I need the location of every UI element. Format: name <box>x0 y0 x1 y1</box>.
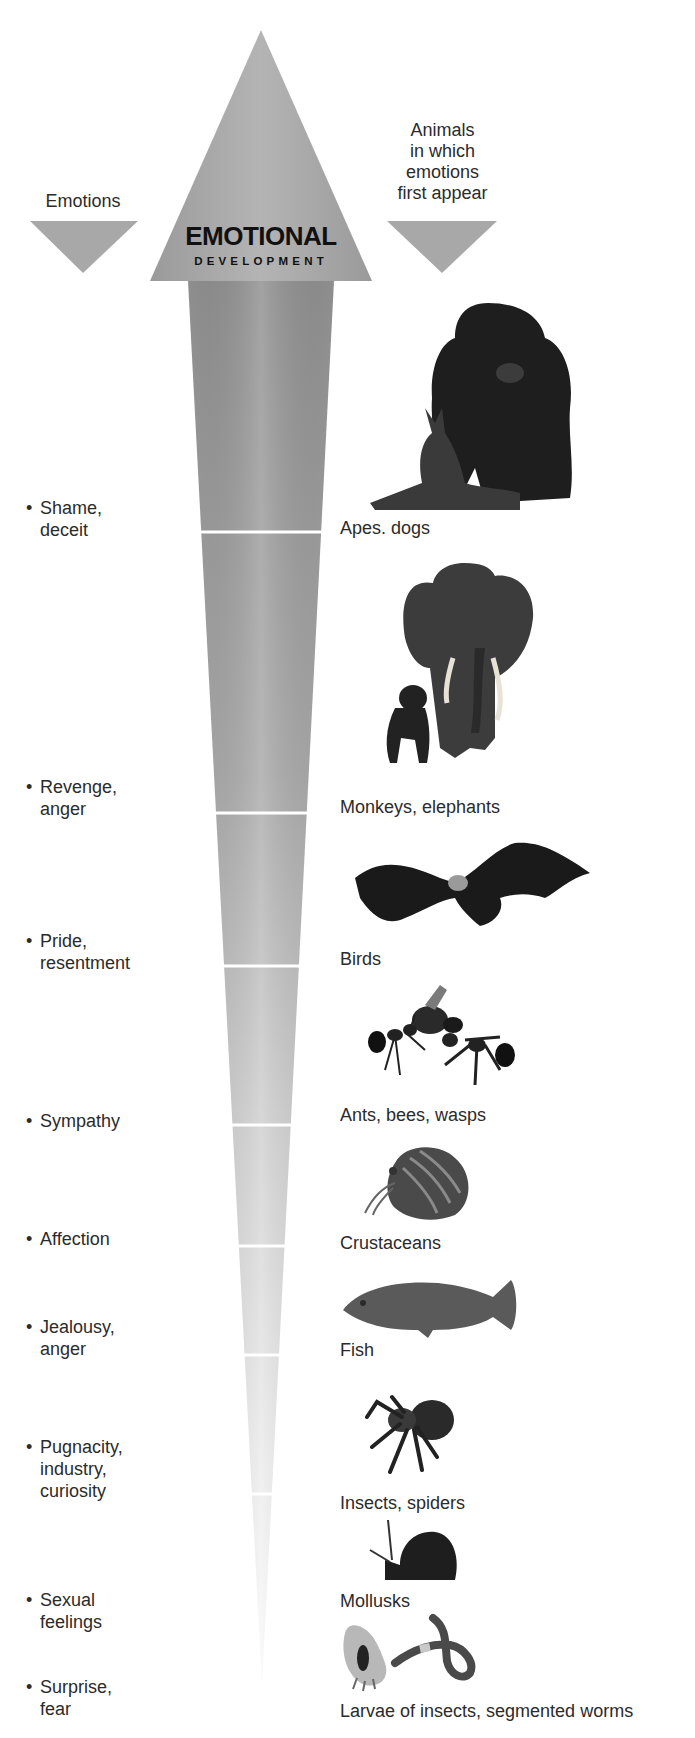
bullet-icon: • <box>26 1676 32 1698</box>
chimp-and-elephant-icon <box>375 558 575 778</box>
animal-label: Larvae of insects, segmented worms <box>340 1700 633 1722</box>
animal-label: Ants, bees, wasps <box>340 1104 486 1126</box>
diagram-subtitle: DEVELOPMENT <box>150 254 372 268</box>
emotion-label: • Revenge, anger <box>26 776 117 820</box>
bullet-icon: • <box>26 930 32 952</box>
hermit-crab-icon <box>355 1143 480 1223</box>
bullet-icon: • <box>26 1110 32 1132</box>
emotion-label: • Pugnacity, industry, curiosity <box>26 1436 123 1502</box>
emotion-label: • Pride, resentment <box>26 930 130 974</box>
animals-down-triangle <box>387 221 497 273</box>
fish-icon <box>343 1275 518 1340</box>
bullet-icon: • <box>26 1436 32 1458</box>
animal-label: Apes. dogs <box>340 517 430 539</box>
animal-label: Fish <box>340 1339 374 1361</box>
emotion-label: • Shame, deceit <box>26 497 102 541</box>
snail-icon <box>360 1520 460 1585</box>
animal-label: Birds <box>340 948 381 970</box>
bullet-icon: • <box>26 497 32 519</box>
animal-label: Crustaceans <box>340 1232 441 1254</box>
emotion-label: • Sympathy <box>26 1110 120 1132</box>
emotion-label: • Jealousy, anger <box>26 1316 115 1360</box>
larva-and-worm-icon <box>335 1613 495 1693</box>
bullet-icon: • <box>26 1316 32 1338</box>
emotion-label: • Affection <box>26 1228 110 1250</box>
animal-label: Monkeys, elephants <box>340 796 500 818</box>
gorilla-and-dog-icon <box>370 298 575 513</box>
spider-icon <box>362 1392 462 1474</box>
bullet-icon: • <box>26 1228 32 1250</box>
animal-label: Mollusks <box>340 1590 410 1612</box>
animal-label: Insects, spiders <box>340 1492 465 1514</box>
emotion-label: • Surprise, fear <box>26 1676 112 1720</box>
diagram-title: EMOTIONAL <box>150 222 372 250</box>
emotions-header: Emotions <box>28 191 138 212</box>
emotion-label: • Sexual feelings <box>26 1589 102 1633</box>
bullet-icon: • <box>26 776 32 798</box>
eagle-icon <box>355 838 595 933</box>
ants-and-wasp-icon <box>365 985 525 1105</box>
animals-header: Animals in which emotions first appear <box>375 120 510 204</box>
emotions-down-triangle <box>30 221 138 273</box>
bullet-icon: • <box>26 1589 32 1611</box>
